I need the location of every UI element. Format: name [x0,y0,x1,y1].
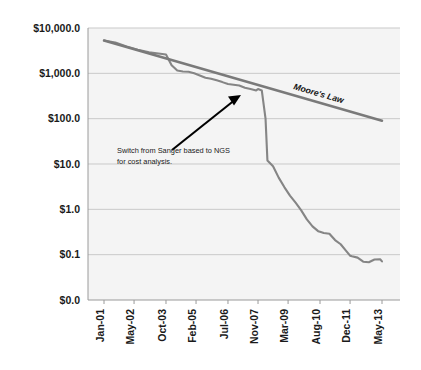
x-axis-tick-label: Nov-07 [248,309,260,344]
x-axis-tick-label: Aug-10 [310,309,322,345]
x-axis-tick-labels: Jan-01May-02Oct-03Feb-05Jul-06Nov-07Mar-… [94,309,384,345]
ngs-switch-note-line1: Switch from Sanger based to NGS [117,146,230,155]
x-axis-tick-label: Jan-01 [94,309,106,342]
y-axis-tick-label: $10.0 [54,158,80,170]
ngs-switch-note-line2: for cost analysis. [117,157,172,166]
y-axis-tick-label: $0.0 [60,294,81,306]
x-axis-tick-label: Oct-03 [156,309,168,342]
x-axis-tick-label: Jul-06 [218,309,230,340]
y-axis-tick-label: $1,000.0 [39,67,80,79]
chart-svg: $10,000.0$1,000.0$100.0$10.0$1.0$0.1$0.0… [0,0,421,370]
y-axis-tick-label: $100.0 [48,112,80,124]
x-axis-tick-label: Feb-05 [186,309,198,343]
y-axis-tick-label: $10,000.0 [33,22,80,34]
x-axis-tick-label: May-02 [124,309,136,345]
cost-per-genome-chart: $10,000.0$1,000.0$100.0$10.0$1.0$0.1$0.0… [0,0,421,370]
y-axis-tick-labels: $10,000.0$1,000.0$100.0$10.0$1.0$0.1$0.0 [33,22,80,306]
y-axis-tick-label: $1.0 [60,203,81,215]
y-axis-tick-label: $0.1 [60,248,81,260]
x-axis-tick-label: May-13 [372,309,384,345]
x-axis-tick-label: Dec-11 [340,309,352,343]
x-axis-tick-label: Mar-09 [278,309,290,343]
x-axis-ticks [104,300,382,304]
